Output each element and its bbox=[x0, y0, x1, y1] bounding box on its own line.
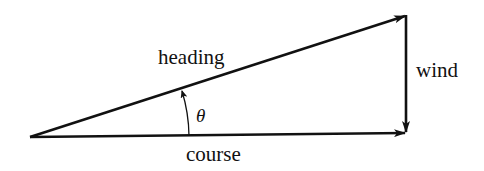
angle-label: θ bbox=[196, 105, 205, 126]
wind-label: wind bbox=[416, 58, 459, 82]
heading-vector bbox=[30, 16, 405, 137]
heading-label: heading bbox=[158, 45, 225, 69]
course-label: course bbox=[186, 142, 241, 166]
angle-arc bbox=[182, 91, 189, 136]
vector-diagram: heading wind course θ bbox=[0, 0, 484, 171]
course-vector bbox=[30, 133, 405, 137]
